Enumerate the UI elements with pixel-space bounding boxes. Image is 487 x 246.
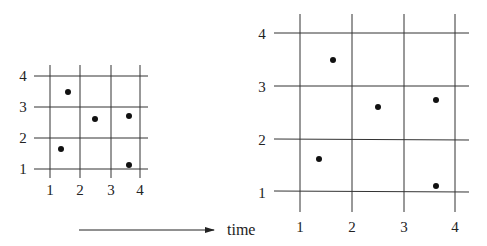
small-grid-lines [34, 65, 148, 178]
x-tick-label: 2 [348, 219, 356, 235]
time-arrow: time [79, 221, 255, 238]
large-grid-y-labels: 4 3 2 1 [258, 26, 266, 201]
data-point [375, 104, 381, 110]
data-point [126, 162, 132, 168]
x-tick-label: 4 [451, 219, 459, 235]
y-tick-label: 3 [258, 79, 266, 95]
y-tick-label: 1 [19, 161, 27, 177]
large-grid-lines [274, 14, 469, 212]
data-point [433, 183, 439, 189]
x-tick-label: 1 [296, 219, 304, 235]
time-label: time [227, 221, 255, 238]
data-point [126, 113, 132, 119]
small-grid-x-labels: 1 2 3 4 [46, 182, 144, 198]
small-grid: 4 3 2 1 1 2 3 4 [19, 65, 148, 198]
x-tick-label: 2 [76, 182, 84, 198]
x-tick-label: 3 [107, 182, 115, 198]
large-grid-points [316, 57, 439, 189]
small-grid-points [58, 89, 132, 168]
y-tick-label: 3 [19, 99, 27, 115]
data-point [58, 146, 64, 152]
y-tick-label: 2 [19, 130, 27, 146]
x-tick-label: 3 [400, 219, 408, 235]
large-grid: 4 3 2 1 1 2 3 4 [258, 14, 469, 235]
y-tick-label: 4 [19, 68, 27, 84]
data-point [330, 57, 336, 63]
data-point [316, 156, 322, 162]
x-tick-label: 1 [46, 182, 54, 198]
data-point [433, 97, 439, 103]
small-grid-y-labels: 4 3 2 1 [19, 68, 27, 177]
y-tick-label: 4 [258, 26, 266, 42]
data-point [65, 89, 71, 95]
x-tick-label: 4 [136, 182, 144, 198]
y-tick-label: 1 [258, 185, 266, 201]
data-point [92, 116, 98, 122]
large-grid-x-labels: 1 2 3 4 [296, 219, 459, 235]
diagram-canvas: 4 3 2 1 1 2 3 4 [0, 0, 487, 246]
y-tick-label: 2 [258, 132, 266, 148]
